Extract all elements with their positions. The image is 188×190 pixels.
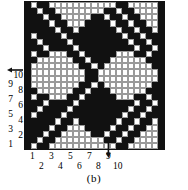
y-tick-label: 5 <box>0 109 13 119</box>
y-tick-label: 3 <box>0 124 13 134</box>
x-tick-label: 8 <box>96 161 101 171</box>
arrow-left-icon <box>7 67 23 73</box>
pattern-grid <box>25 2 164 149</box>
x-tick-label: 5 <box>68 151 73 161</box>
arrow-down-icon <box>105 140 112 158</box>
x-tick-label: 6 <box>77 161 82 171</box>
y-axis-labels: 10864297531 <box>0 0 24 190</box>
y-tick-label: 1 <box>0 139 13 149</box>
y-tick-label: 7 <box>0 94 13 104</box>
pattern-grid-container <box>24 1 165 150</box>
x-tick-label: 1 <box>30 151 35 161</box>
x-tick-label: 7 <box>87 151 92 161</box>
x-tick-label: 10 <box>113 161 123 171</box>
caption-text: (b) <box>87 172 101 184</box>
x-tick-label: 3 <box>49 151 54 161</box>
figure-caption: (b) <box>0 172 188 184</box>
x-tick-label: 4 <box>58 161 63 171</box>
y-tick-label: 9 <box>0 79 13 89</box>
x-tick-label: 2 <box>39 161 44 171</box>
grid-cell <box>158 143 164 149</box>
pattern-figure: 10864297531 13579246810 (b) <box>0 0 188 190</box>
